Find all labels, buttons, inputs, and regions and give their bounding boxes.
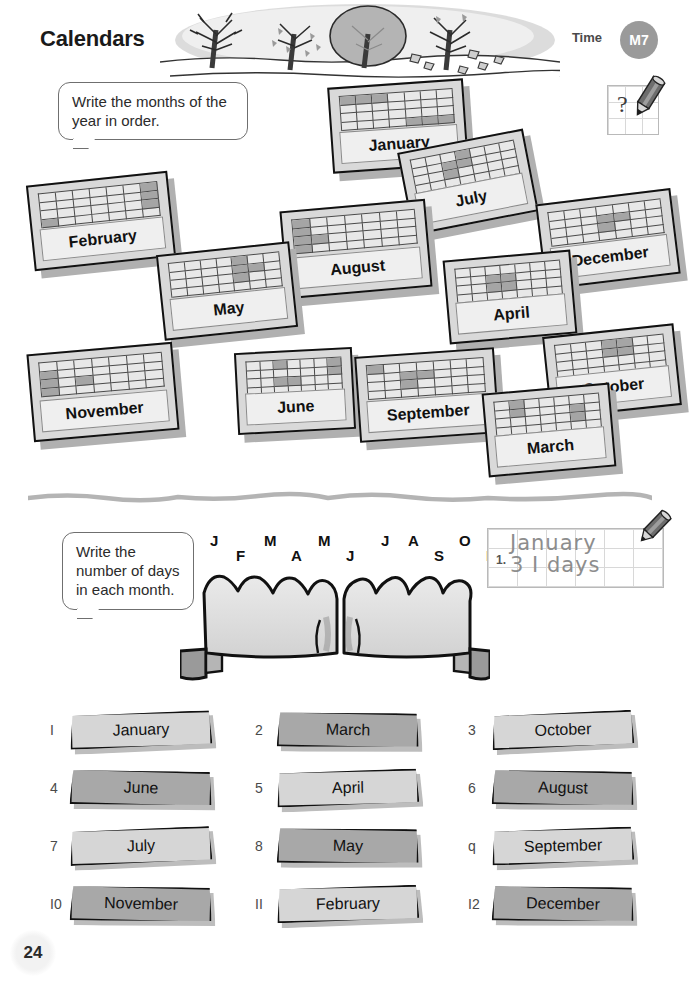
calendar-card-june[interactable]: June	[234, 347, 356, 435]
question-mark-icon: ?	[617, 91, 628, 118]
instruction-text-months: Write the months of the year in order.	[72, 93, 227, 129]
calendar-cell	[382, 237, 400, 247]
banner-face: June	[70, 768, 213, 808]
calendar-cell	[266, 278, 283, 288]
instruction-text-days: Write the number of days in each month.	[76, 543, 179, 598]
card-body: May	[156, 241, 298, 341]
answer-banner-january[interactable]: January	[70, 710, 213, 750]
banner-face: May	[277, 827, 420, 866]
calendar-cell	[452, 385, 469, 395]
calendar-month-label: March	[526, 436, 575, 458]
item-number: I2	[468, 896, 480, 912]
card-body: September	[354, 347, 500, 443]
calendar-cell	[419, 387, 436, 397]
banner-month-label: March	[326, 721, 371, 740]
answer-banner-october[interactable]: October	[491, 710, 634, 750]
calendar-month-label: December	[571, 243, 650, 270]
calendar-month-label: April	[493, 303, 531, 324]
banner-month-label: June	[123, 779, 158, 798]
section-divider	[28, 490, 652, 504]
card-body: August	[279, 199, 432, 299]
example-number: 1.	[496, 553, 506, 567]
calendar-cell	[358, 120, 375, 130]
pencil-icon-example	[634, 508, 674, 550]
answer-banner-september[interactable]: September	[492, 826, 635, 865]
calendar-card-september[interactable]: September	[354, 347, 500, 443]
bubble-tail-days	[77, 608, 103, 626]
calendar-cell	[76, 384, 94, 394]
item-number: 2	[255, 722, 263, 738]
answer-banner-february[interactable]: February	[277, 885, 420, 924]
calendar-month-label: June	[277, 397, 315, 417]
calendar-card-march[interactable]: March	[482, 383, 617, 478]
card-body: March	[482, 383, 617, 478]
knuckle-letter: A	[408, 532, 419, 549]
answer-banner-april[interactable]: April	[277, 769, 420, 808]
answer-banner-august[interactable]: August	[492, 768, 635, 807]
item-number: q	[468, 838, 476, 854]
calendar-cell	[203, 284, 220, 294]
item-number: 3	[468, 722, 476, 738]
answer-banner-may[interactable]: May	[277, 827, 420, 866]
calendar-cell	[406, 117, 423, 127]
answer-banner-december[interactable]: December	[492, 884, 635, 923]
calendar-cell	[342, 121, 359, 131]
answer-banner-june[interactable]: June	[70, 768, 213, 808]
card-body: November	[26, 342, 179, 442]
banner-month-label: November	[104, 894, 178, 914]
calendar-cell	[422, 116, 439, 126]
calendar-card-november[interactable]: November	[26, 342, 179, 442]
calendar-cell	[147, 378, 165, 388]
answer-banner-march[interactable]: March	[277, 711, 420, 750]
calendar-cell	[187, 286, 204, 296]
calendar-cell	[235, 281, 252, 291]
answer-banner-november[interactable]: November	[70, 884, 213, 924]
calendar-cell	[94, 383, 112, 393]
calendar-card-may[interactable]: May	[156, 241, 298, 341]
calendar-month-label: September	[386, 401, 470, 425]
calendar-card-april[interactable]: April	[443, 250, 578, 345]
card-name-plate: November	[40, 389, 170, 432]
knuckle-letter: J	[381, 532, 389, 549]
calendar-cell	[112, 381, 130, 391]
knuckle-letter: J	[346, 547, 354, 564]
calendar-cell	[329, 241, 347, 251]
banner-face: September	[492, 826, 635, 865]
calendar-cell	[435, 386, 452, 396]
calendar-cell	[312, 243, 330, 253]
instruction-bubble-days: Write the number of days in each month.	[62, 532, 194, 610]
item-number: 5	[255, 780, 263, 796]
card-name-plate: June	[245, 388, 347, 425]
item-number: 4	[50, 780, 58, 796]
banner-month-label: April	[332, 779, 364, 798]
calendar-cell	[374, 119, 391, 129]
page-header: Calendars Time M7	[0, 0, 680, 92]
calendar-cell	[250, 279, 267, 289]
banner-month-label: January	[112, 720, 169, 739]
calendar-cell	[172, 288, 189, 298]
calendar-month-label: May	[212, 298, 245, 319]
knuckle-letter: F	[236, 547, 245, 564]
example-line-2: 3 I days	[510, 554, 660, 576]
card-body: February	[26, 171, 176, 271]
calendar-card-february[interactable]: February	[26, 171, 176, 271]
banner-face: January	[70, 710, 213, 750]
banner-month-label: December	[526, 894, 600, 914]
item-number: 6	[468, 780, 476, 796]
calendar-cell	[390, 118, 407, 128]
fists-knuckles-illustration	[180, 565, 490, 685]
calendar-cell	[294, 244, 312, 254]
calendar-month-label: November	[65, 399, 145, 424]
calendar-cell	[400, 235, 418, 245]
banner-face: July	[70, 826, 213, 866]
card-name-plate: August	[293, 246, 423, 289]
calendar-card-august[interactable]: August	[279, 199, 432, 299]
calendar-cell	[219, 283, 236, 293]
answer-banner-july[interactable]: July	[70, 826, 213, 866]
item-number: I0	[50, 896, 62, 912]
calendar-cell	[385, 389, 402, 399]
card-body: June	[234, 347, 356, 435]
banner-month-label: May	[333, 837, 364, 856]
banner-month-label: August	[538, 778, 588, 797]
banner-face: February	[277, 885, 420, 924]
